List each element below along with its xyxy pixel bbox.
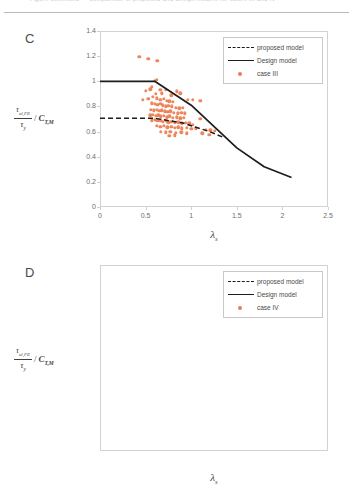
marker-dot-icon bbox=[228, 68, 254, 80]
legend-label: Design model bbox=[257, 291, 297, 298]
panel-d-label: D bbox=[25, 265, 34, 280]
y-axis-denominator: τy bbox=[18, 360, 28, 372]
legend-item-case-c: case III bbox=[228, 67, 318, 80]
legend-c: proposed model Design model case III bbox=[223, 37, 323, 84]
x-axis-title-d: λs bbox=[184, 471, 244, 485]
y-axis-ct-term: CT,M bbox=[39, 354, 54, 366]
legend-item-proposed-model-c: proposed model bbox=[228, 41, 318, 54]
legend-label: Design model bbox=[257, 57, 297, 64]
solid-line-icon bbox=[228, 289, 254, 301]
legend-label: proposed model bbox=[257, 44, 304, 51]
y-axis-denominator: τy bbox=[18, 119, 28, 131]
y-axis-divide-symbol: / bbox=[33, 113, 38, 123]
y-axis-numerator: τul,FE bbox=[14, 347, 32, 359]
y-axis-ct-term: CT,M bbox=[39, 113, 54, 125]
legend-item-case-d: case IV bbox=[228, 301, 318, 314]
dashed-line-icon bbox=[228, 276, 254, 288]
legend-item-design-model-c: Design model bbox=[228, 54, 318, 67]
figure-page: Figure continued — comparison of propose… bbox=[0, 0, 353, 502]
legend-label: proposed model bbox=[257, 278, 304, 285]
legend-label: case IV bbox=[257, 304, 279, 311]
legend-label: case III bbox=[257, 70, 278, 77]
legend-item-design-model-d: Design model bbox=[228, 288, 318, 301]
panel-c: C 00.20.40.60.811.21.400.511.522.5 τul,F… bbox=[0, 0, 353, 255]
panel-d: D 00.20.40.60.811.21.41.600.511.522.5 τu… bbox=[0, 255, 353, 502]
proposed-model-curve bbox=[100, 118, 223, 137]
y-axis-title-c: τul,FE τy / CT,M bbox=[14, 106, 54, 131]
design-model-curve bbox=[100, 81, 292, 177]
legend-item-proposed-model-d: proposed model bbox=[228, 275, 318, 288]
y-axis-divide-symbol: / bbox=[33, 354, 38, 364]
legend-d: proposed model Design model case IV bbox=[223, 271, 323, 318]
y-axis-numerator: τul,FE bbox=[14, 106, 32, 118]
x-axis-title-c: λs bbox=[184, 228, 244, 242]
y-axis-title-d: τul,FE τy / CT,M bbox=[14, 347, 54, 372]
marker-dot-icon bbox=[228, 302, 254, 314]
dashed-line-icon bbox=[228, 42, 254, 54]
solid-line-icon bbox=[228, 55, 254, 67]
